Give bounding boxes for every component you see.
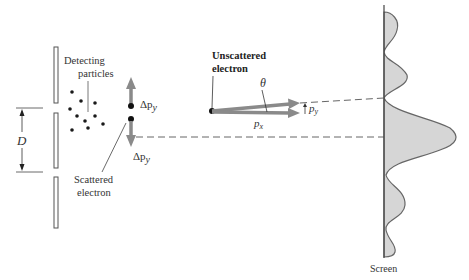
diagram-canvas: D Detecting particles Δpy Δpy Scattered … <box>0 0 469 280</box>
arrow-up-icon <box>126 77 136 89</box>
scattered-electron: Δpy Δpy Scattered electron <box>74 77 158 198</box>
leader-line <box>262 90 267 112</box>
screen-label: Screen <box>370 263 397 274</box>
barrier-top <box>54 47 58 103</box>
unscattered-electron-label-2: electron <box>212 63 248 74</box>
slit-barrier <box>54 47 58 228</box>
arrow-up-icon <box>20 109 25 116</box>
arrow-down-icon <box>126 135 136 147</box>
arrow-down-icon <box>20 164 25 171</box>
scattered-electron-label-2: electron <box>77 187 112 198</box>
unscattered-electron-label-1: Unscattered <box>212 50 266 61</box>
barrier-middle <box>54 113 58 168</box>
scattered-electron-label-1: Scattered <box>74 174 114 185</box>
screen: Screen <box>370 5 456 274</box>
slit-separation-label: D <box>16 133 27 148</box>
barrier-bottom <box>54 177 58 228</box>
detecting-particles-label-2: particles <box>78 68 114 79</box>
intensity-pattern <box>384 12 456 257</box>
delta-py-bottom-label: Δpy <box>133 150 151 165</box>
slit-separation-dimension: D <box>16 108 43 172</box>
detecting-particles-label-1: Detecting <box>64 55 106 66</box>
px-label: px <box>253 117 264 131</box>
theta-label: θ <box>260 76 266 90</box>
electron-dot <box>128 103 134 109</box>
scattered-ray-dashed <box>300 98 384 103</box>
delta-py-top-label: Δpy <box>140 98 158 113</box>
py-label: py <box>308 102 319 116</box>
arrow-up-icon <box>303 103 307 107</box>
detecting-particles: Detecting particles <box>64 55 114 132</box>
leader-line <box>212 76 213 108</box>
leader-line <box>102 123 126 172</box>
arrow-right-icon <box>288 99 300 110</box>
arrow-right-icon <box>288 108 300 118</box>
unscattered-electron: Unscattered electron θ px py <box>209 50 319 131</box>
